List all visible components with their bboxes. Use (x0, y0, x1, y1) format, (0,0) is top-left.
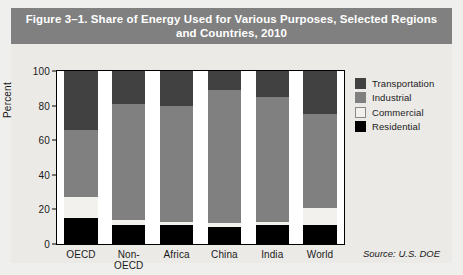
bar-segment-commercial (303, 208, 336, 225)
x-tick-label-china: China (201, 249, 249, 260)
bar-segment-industrial (64, 130, 97, 197)
bar-oecd (64, 71, 97, 244)
plot-area (56, 70, 345, 245)
bar-segment-transportation (303, 71, 336, 114)
x-tick-label-non-oecd: Non-OECD (105, 249, 153, 271)
legend-label-residential: Residential (372, 121, 420, 132)
legend-swatch-residential (355, 121, 366, 132)
source-note: Source: U.S. DOE (363, 248, 440, 259)
bar-segment-transportation (256, 71, 289, 97)
y-tick-label: 40 (11, 169, 55, 180)
legend-item-commercial: Commercial (355, 105, 434, 120)
legend-item-residential: Residential (355, 120, 434, 135)
bar-china (208, 71, 241, 244)
legend-label-commercial: Commercial (372, 107, 424, 118)
legend-item-industrial: Industrial (355, 91, 434, 106)
bar-segment-residential (160, 225, 193, 244)
y-tick-label: 80 (11, 100, 55, 111)
bar-non-oecd (112, 71, 145, 244)
figure-title: Figure 3–1. Share of Energy Used for Var… (11, 8, 452, 44)
bar-segment-industrial (208, 90, 241, 223)
bar-segment-residential (256, 225, 289, 244)
x-tick-label-oecd: OECD (57, 249, 105, 260)
x-tick-label-india: India (248, 249, 296, 260)
bar-india (256, 71, 289, 244)
bar-segment-residential (64, 218, 97, 244)
x-tick-label-world: World (296, 249, 344, 260)
bar-segment-industrial (256, 97, 289, 222)
bar-world (303, 71, 336, 244)
legend-label-transportation: Transportation (372, 78, 434, 89)
bar-segment-residential (208, 227, 241, 244)
bar-segment-commercial (64, 197, 97, 218)
y-tick-label: 60 (11, 135, 55, 146)
legend-swatch-commercial (355, 107, 366, 118)
figure-panel: Figure 3–1. Share of Energy Used for Var… (11, 8, 452, 263)
bar-segment-residential (303, 225, 336, 244)
y-tick-label: 20 (11, 204, 55, 215)
bar-segment-industrial (160, 106, 193, 222)
chart-legend: TransportationIndustrialCommercialReside… (355, 76, 434, 134)
bar-segment-transportation (112, 71, 145, 104)
y-tick-label: 0 (11, 239, 55, 250)
bar-segment-industrial (303, 114, 336, 207)
bar-segment-industrial (112, 104, 145, 220)
bar-segment-transportation (160, 71, 193, 106)
bar-segment-transportation (208, 71, 241, 90)
bar-africa (160, 71, 193, 244)
bar-segment-residential (112, 225, 145, 244)
legend-item-transportation: Transportation (355, 76, 434, 91)
x-tick-label-africa: Africa (153, 249, 201, 260)
legend-swatch-industrial (355, 92, 366, 103)
legend-label-industrial: Industrial (372, 92, 412, 103)
y-tick-label: 100 (11, 66, 55, 77)
legend-swatch-transportation (355, 78, 366, 89)
bar-segment-transportation (64, 71, 97, 130)
